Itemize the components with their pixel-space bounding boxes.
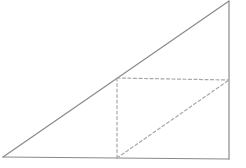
base-line [3,157,229,159]
solid-triangle [3,1,229,159]
dashed-construction [117,78,229,158]
geometry-diagram [0,0,246,168]
rectangle-top-line [117,78,229,80]
rectangle-diagonal-line [117,80,229,158]
